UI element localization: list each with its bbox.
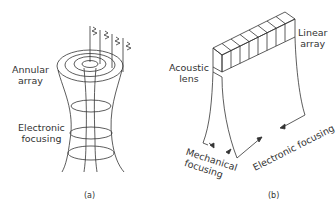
label-line: lens — [169, 73, 209, 84]
label-line: Linear — [298, 27, 328, 38]
caption-b: (b) — [268, 191, 279, 200]
label-line: array — [298, 38, 328, 49]
acoustic-lens-label: Acoustic lens — [169, 62, 209, 84]
label-line: Acoustic — [169, 62, 209, 73]
linear-array-label: Linear array — [298, 27, 328, 49]
